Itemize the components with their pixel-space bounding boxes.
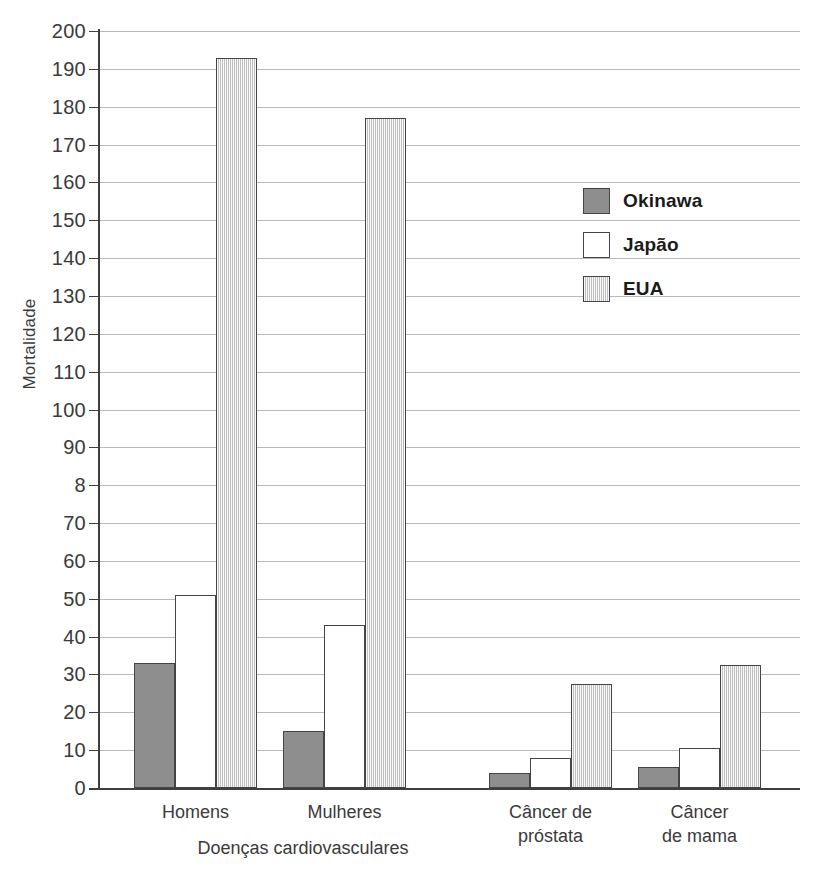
y-axis-tick-label: 150 bbox=[26, 209, 86, 232]
bar-eua bbox=[571, 684, 612, 788]
legend-swatch-icon-japao bbox=[583, 232, 610, 258]
y-axis-tick-label: 130 bbox=[26, 284, 86, 307]
y-axis-tick bbox=[89, 31, 98, 32]
legend-label-japao: Japão bbox=[623, 234, 679, 256]
x-axis-group-label: Doenças cardiovasculares bbox=[108, 838, 498, 859]
y-axis-tick-label: 200 bbox=[26, 20, 86, 43]
y-axis-tick-label: 10 bbox=[26, 739, 86, 762]
y-axis-tick bbox=[89, 145, 98, 146]
gridline bbox=[100, 485, 800, 486]
gridline bbox=[100, 523, 800, 524]
y-axis-tick bbox=[89, 485, 98, 486]
gridline bbox=[100, 31, 800, 32]
x-axis-category-label: Mulheres bbox=[235, 800, 455, 824]
y-axis-tick bbox=[89, 410, 98, 411]
y-axis-tick bbox=[89, 182, 98, 183]
x-axis-category-label: Câncer de mama bbox=[590, 800, 810, 848]
y-axis-tick bbox=[89, 447, 98, 448]
y-axis-tick bbox=[89, 750, 98, 751]
y-axis-tick bbox=[89, 372, 98, 373]
y-axis-tick-label: 50 bbox=[26, 587, 86, 610]
y-axis-tick-label: 100 bbox=[26, 398, 86, 421]
legend-label-okinawa: Okinawa bbox=[623, 190, 703, 212]
legend-swatch-icon-okinawa bbox=[583, 188, 610, 214]
bar-japao bbox=[324, 625, 365, 788]
y-axis-tick-labels: 0102030405060708901001101201301401501601… bbox=[20, 31, 86, 788]
bar-okinawa bbox=[489, 773, 530, 788]
bar-japao bbox=[175, 595, 216, 788]
y-axis-tick bbox=[89, 561, 98, 562]
gridline bbox=[100, 69, 800, 70]
y-axis-tick-label: 180 bbox=[26, 95, 86, 118]
bar-okinawa bbox=[638, 767, 679, 788]
gridline bbox=[100, 334, 800, 335]
chart-legend: Okinawa Japão EUA bbox=[583, 183, 703, 315]
y-axis-tick-label: 170 bbox=[26, 133, 86, 156]
bar-eua bbox=[365, 118, 406, 788]
y-axis-tick-label: 70 bbox=[26, 512, 86, 535]
legend-item-japao: Japão bbox=[583, 227, 703, 263]
gridline bbox=[100, 561, 800, 562]
gridline bbox=[100, 372, 800, 373]
y-axis-tick bbox=[89, 523, 98, 524]
x-axis-line bbox=[89, 788, 800, 790]
bar-eua bbox=[720, 665, 761, 788]
y-axis-tick-label: 0 bbox=[26, 777, 86, 800]
y-axis-tick-label: 60 bbox=[26, 549, 86, 572]
y-axis-tick-label: 160 bbox=[26, 171, 86, 194]
bar-okinawa bbox=[283, 731, 324, 788]
plot-area bbox=[98, 31, 800, 788]
y-axis-tick-label: 110 bbox=[26, 360, 86, 383]
y-axis-tick-label: 30 bbox=[26, 663, 86, 686]
y-axis-tick-label: 190 bbox=[26, 57, 86, 80]
y-axis-tick bbox=[89, 258, 98, 259]
bar-chart: Mortalidade 0102030405060708901001101201… bbox=[0, 0, 821, 884]
y-axis-tick bbox=[89, 599, 98, 600]
y-axis-tick-label: 40 bbox=[26, 625, 86, 648]
bar-eua bbox=[216, 58, 257, 789]
y-axis-tick-label: 140 bbox=[26, 247, 86, 270]
y-axis-tick bbox=[89, 107, 98, 108]
bar-okinawa bbox=[134, 663, 175, 788]
y-axis-tick bbox=[89, 637, 98, 638]
legend-label-eua: EUA bbox=[623, 278, 664, 300]
legend-item-okinawa: Okinawa bbox=[583, 183, 703, 219]
y-axis-tick bbox=[89, 69, 98, 70]
gridline bbox=[100, 107, 800, 108]
gridline bbox=[100, 447, 800, 448]
y-axis-tick bbox=[89, 674, 98, 675]
gridline bbox=[100, 145, 800, 146]
y-axis-tick-label: 8 bbox=[26, 474, 86, 497]
legend-item-eua: EUA bbox=[583, 271, 703, 307]
y-axis-tick-label: 20 bbox=[26, 701, 86, 724]
y-axis-tick bbox=[89, 296, 98, 297]
gridline bbox=[100, 410, 800, 411]
y-axis-tick bbox=[89, 788, 98, 789]
y-axis-tick-label: 120 bbox=[26, 322, 86, 345]
y-axis-tick bbox=[89, 334, 98, 335]
bar-japao bbox=[530, 758, 571, 788]
legend-swatch-icon-eua bbox=[583, 276, 610, 302]
bar-japao bbox=[679, 748, 720, 788]
y-axis-tick-label: 90 bbox=[26, 436, 86, 459]
y-axis-tick bbox=[89, 712, 98, 713]
y-axis-tick bbox=[89, 220, 98, 221]
